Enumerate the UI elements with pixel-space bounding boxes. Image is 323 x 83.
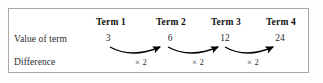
term-header-1: Term 1 — [88, 18, 134, 28]
term-header-4: Term 4 — [258, 18, 304, 28]
difference-value-1: × 2 — [121, 58, 161, 67]
term-value-1: 3 — [85, 34, 131, 44]
row-label-difference: Difference — [14, 58, 55, 68]
term-header-3: Term 3 — [203, 18, 249, 28]
term-value-3: 12 — [202, 34, 248, 44]
difference-value-2: × 2 — [178, 58, 218, 67]
term-value-2: 6 — [147, 34, 193, 44]
sequence-figure: Value of term Difference Term 1 Term 2 T… — [0, 0, 323, 83]
term-value-4: 24 — [257, 34, 303, 44]
term-header-2: Term 2 — [148, 18, 194, 28]
row-label-value-of-term: Value of term — [14, 35, 67, 45]
difference-value-3: × 2 — [233, 58, 273, 67]
